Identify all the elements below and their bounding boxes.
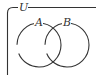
set-a-label: A (34, 16, 43, 29)
universe-label: U (19, 1, 29, 14)
venn-diagram: U A B (0, 0, 96, 75)
universe-frame-corner (8, 8, 19, 76)
set-b-circle (45, 23, 89, 67)
set-b-label: B (62, 16, 71, 29)
set-a-circle (17, 23, 61, 67)
venn-canvas: U A B (0, 0, 96, 75)
